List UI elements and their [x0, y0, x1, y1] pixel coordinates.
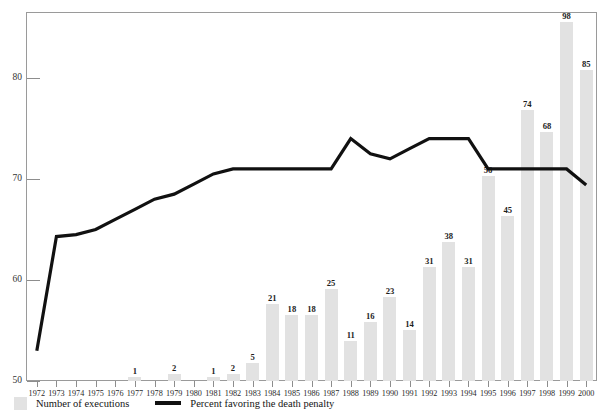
x-axis-tick-1995 [488, 381, 489, 387]
bar-1994 [462, 267, 475, 381]
bar-1999 [560, 22, 573, 381]
bar-value-label-1989: 16 [358, 311, 382, 321]
bar-1984 [266, 304, 279, 381]
x-axis-tick-1972 [37, 381, 38, 387]
bar-1985 [285, 315, 298, 381]
x-axis-tick-1999 [567, 381, 568, 387]
bar-1981 [207, 377, 220, 381]
bar-1988 [344, 341, 357, 381]
x-axis-tick-1982 [233, 381, 234, 387]
bar-1998 [540, 132, 553, 381]
bar-1977 [128, 377, 141, 381]
y-axis-label-60: 60 [0, 274, 22, 284]
x-axis-tick-1976 [115, 381, 116, 387]
bar-value-label-1994: 31 [456, 256, 480, 266]
bar-1989 [364, 322, 377, 381]
bar-1979 [168, 374, 181, 381]
bar-value-label-1999: 98 [555, 11, 579, 21]
y-axis-tick-70 [27, 179, 40, 180]
bar-value-label-1987: 25 [319, 278, 343, 288]
x-axis-tick-1994 [468, 381, 469, 387]
bar-value-label-1988: 11 [339, 330, 363, 340]
y-axis-label-50: 50 [0, 375, 22, 385]
x-axis-tick-1987 [331, 381, 332, 387]
x-axis-tick-1996 [508, 381, 509, 387]
bar-1995 [482, 176, 495, 381]
bar-value-label-1997: 74 [515, 99, 539, 109]
bar-value-label-1986: 18 [300, 304, 324, 314]
chart-figure: 5060708019721973197419751976197719781979… [0, 0, 613, 417]
x-axis-tick-1989 [370, 381, 371, 387]
bar-1990 [383, 297, 396, 381]
y-axis-label-80: 80 [0, 72, 22, 82]
x-axis-tick-1981 [213, 381, 214, 387]
bar-value-label-2000: 85 [574, 59, 598, 69]
executions-swatch-icon [14, 397, 27, 410]
x-axis-tick-1975 [96, 381, 97, 387]
x-axis-tick-1977 [135, 381, 136, 387]
percent-line-swatch-icon [155, 401, 181, 405]
legend-label-percent: Percent favoring the death penalty [190, 398, 334, 409]
bar-value-label-1991: 14 [398, 319, 422, 329]
bar-1987 [325, 289, 338, 381]
y-axis-tick-50 [27, 381, 40, 382]
bar-value-label-1979: 2 [162, 363, 186, 373]
bar-1992 [423, 267, 436, 381]
bar-value-label-1992: 31 [417, 256, 441, 266]
chart-legend: Number of executions Percent favoring th… [14, 393, 334, 413]
bar-value-label-1995: 56 [476, 165, 500, 175]
bar-1993 [442, 242, 455, 381]
bar-value-label-1998: 68 [535, 121, 559, 131]
bar-value-label-1982: 2 [221, 363, 245, 373]
y-axis-label-70: 70 [0, 173, 22, 183]
bar-1983 [246, 363, 259, 381]
x-axis-tick-1980 [194, 381, 195, 387]
x-axis-tick-1974 [76, 381, 77, 387]
bar-1996 [501, 216, 514, 381]
x-axis-tick-1984 [272, 381, 273, 387]
x-axis-tick-1998 [547, 381, 548, 387]
x-axis-tick-1979 [174, 381, 175, 387]
x-axis-tick-1990 [390, 381, 391, 387]
bar-value-label-1983: 5 [241, 352, 265, 362]
x-axis-label-2000: 2000 [575, 389, 597, 398]
x-axis-tick-1993 [449, 381, 450, 387]
bar-1986 [305, 315, 318, 381]
clipped-header-text [34, 0, 284, 9]
bar-1982 [227, 374, 240, 381]
legend-label-executions: Number of executions [36, 398, 129, 409]
x-axis-tick-2000 [586, 381, 587, 387]
bar-value-label-1996: 45 [496, 205, 520, 215]
x-axis-tick-1973 [56, 381, 57, 387]
x-axis-tick-1986 [312, 381, 313, 387]
bar-value-label-1993: 38 [437, 231, 461, 241]
bar-value-label-1977: 1 [123, 366, 147, 376]
x-axis-tick-1997 [527, 381, 528, 387]
bar-1991 [403, 330, 416, 381]
x-axis-tick-1992 [429, 381, 430, 387]
y-axis-tick-80 [27, 78, 40, 79]
x-axis-tick-1983 [253, 381, 254, 387]
x-axis-tick-1985 [292, 381, 293, 387]
y-axis-tick-60 [27, 280, 40, 281]
bar-1997 [521, 110, 534, 381]
bar-value-label-1990: 23 [378, 286, 402, 296]
bar-value-label-1984: 21 [260, 293, 284, 303]
bar-2000 [580, 70, 593, 381]
x-axis-tick-1988 [351, 381, 352, 387]
x-axis-tick-1991 [410, 381, 411, 387]
x-axis-tick-1978 [155, 381, 156, 387]
